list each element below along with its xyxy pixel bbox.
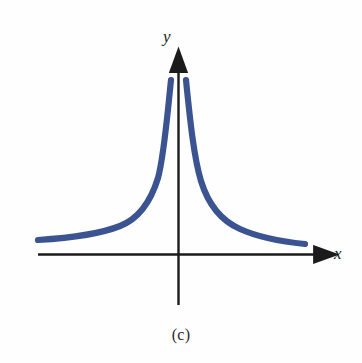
figure-caption: (c) [0,326,362,344]
figure-panel: y x (c) [0,0,362,363]
y-axis-label: y [163,28,171,45]
plot-canvas [0,0,362,363]
curve-left-branch [38,80,171,240]
curve-right-branch [186,80,305,244]
x-axis-label: x [334,245,342,262]
